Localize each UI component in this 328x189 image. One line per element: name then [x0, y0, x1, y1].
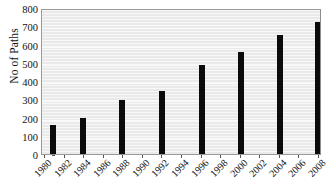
- bar: [159, 91, 165, 155]
- x-axis-tick-label: 1992: [146, 157, 171, 182]
- bar: [238, 52, 244, 154]
- y-axis-tick-label: 600: [14, 41, 38, 50]
- plot-area: [41, 9, 321, 155]
- x-axis-tick-label: 2002: [244, 157, 269, 182]
- x-axis-tick-label: 1998: [205, 157, 230, 182]
- x-axis-tick-label: 1982: [49, 157, 74, 182]
- bar: [50, 125, 56, 154]
- y-axis-tick-label: 400: [14, 78, 38, 87]
- bar: [277, 35, 283, 154]
- x-axis-tick-label: 1994: [166, 157, 191, 182]
- y-axis-tick-label: 300: [14, 96, 38, 105]
- x-axis-tick-label: 2004: [264, 157, 289, 182]
- bar-chart-figure: No of Paths 0100200300400500600700800 19…: [0, 0, 328, 189]
- bar: [119, 100, 125, 154]
- x-axis-tick-label: 2000: [225, 157, 250, 182]
- y-axis-tick-label: 100: [14, 132, 38, 141]
- x-axis-tick-label: 1996: [186, 157, 211, 182]
- y-axis-tick-label: 500: [14, 59, 38, 68]
- y-axis-tick-label: 800: [14, 5, 38, 14]
- bar: [199, 65, 205, 154]
- bar: [315, 22, 321, 154]
- x-axis-tick-label: 2008: [303, 157, 328, 182]
- x-axis-tick-label-group: 1980198219841986198819901992199419961998…: [41, 157, 321, 189]
- y-axis-tick-label: 200: [14, 114, 38, 123]
- x-axis-tick-label: 1986: [88, 157, 113, 182]
- x-axis-tick-label: 1990: [127, 157, 152, 182]
- y-axis-tick-label-group: 0100200300400500600700800: [14, 9, 38, 155]
- bar: [80, 118, 86, 155]
- x-axis-tick-label: 1984: [68, 157, 93, 182]
- y-axis-tick-label: 0: [14, 151, 38, 160]
- x-axis-tick-label: 1980: [29, 157, 54, 182]
- bar-series-group: [42, 10, 320, 154]
- x-axis-tick-label: 2006: [283, 157, 308, 182]
- x-axis-tick-label: 1988: [107, 157, 132, 182]
- y-axis-tick-label: 700: [14, 23, 38, 32]
